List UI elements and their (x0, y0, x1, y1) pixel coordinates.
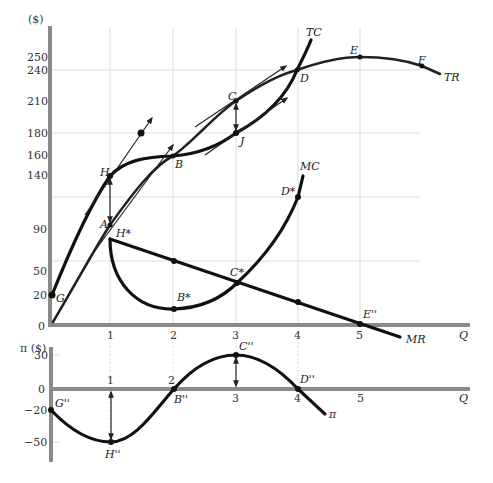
svg-text:G: G (56, 292, 65, 305)
tr-curve (53, 57, 440, 322)
svg-text:2: 2 (170, 329, 177, 342)
svg-text:2: 2 (168, 374, 175, 387)
tr-label: TR (444, 71, 460, 84)
svg-text:B'': B'' (173, 393, 188, 406)
tangent-point (138, 130, 145, 137)
svg-text:30: 30 (34, 349, 48, 362)
tc-label: TC (306, 26, 322, 39)
svg-text:250: 250 (27, 51, 48, 64)
bottom-x-label: Q (459, 392, 468, 405)
svg-text:H'': H'' (104, 448, 121, 461)
mc-label: MC (299, 160, 320, 173)
svg-text:D*: D* (280, 185, 296, 198)
svg-text:B: B (174, 158, 183, 171)
svg-text:3: 3 (232, 392, 239, 405)
svg-text:1: 1 (107, 329, 114, 342)
svg-text:0: 0 (38, 320, 45, 333)
svg-text:5: 5 (356, 329, 363, 342)
pi-label: π (328, 408, 337, 421)
svg-text:5: 5 (357, 392, 364, 405)
mc-curve (110, 176, 303, 309)
svg-text:E: E (349, 44, 358, 57)
mr-curve (110, 239, 400, 337)
svg-text:240: 240 (27, 64, 48, 77)
svg-text:C: C (228, 90, 237, 103)
svg-text:A: A (99, 218, 108, 231)
bottom-y-ticks: π ($) 30 0 −20 −50 (20, 342, 48, 449)
svg-text:180: 180 (27, 127, 48, 140)
top-x-label: Q (459, 329, 468, 342)
svg-text:−50: −50 (24, 436, 47, 449)
svg-text:1: 1 (107, 374, 114, 387)
top-y-label: ($) (28, 13, 44, 26)
svg-text:3: 3 (232, 329, 239, 342)
tangent-arrow-c (195, 66, 286, 127)
svg-text:J: J (238, 135, 245, 148)
top-points (49, 55, 425, 328)
top-point-labels: G H A B C J D E F TC TR MC MR H* B* C* D… (56, 26, 460, 346)
svg-text:H*: H* (115, 227, 132, 240)
svg-text:160: 160 (27, 149, 48, 162)
svg-text:140: 140 (27, 169, 48, 182)
svg-text:0: 0 (38, 383, 45, 396)
svg-text:C'': C'' (239, 340, 253, 353)
svg-text:210: 210 (27, 95, 48, 108)
svg-text:4: 4 (294, 392, 301, 405)
svg-text:−20: −20 (24, 404, 47, 417)
bottom-axes (50, 347, 470, 462)
svg-text:C*: C* (230, 266, 244, 279)
svg-text:D'': D'' (299, 373, 315, 386)
svg-text:B*: B* (176, 291, 191, 304)
tangent-arrow-j (205, 98, 287, 155)
svg-text:D: D (299, 72, 309, 85)
svg-text:4: 4 (294, 329, 301, 342)
profit-maximization-chart: ($) 250 240 210 180 160 140 90 50 20 0 1… (0, 0, 493, 483)
svg-text:50: 50 (33, 265, 47, 278)
svg-text:20: 20 (33, 289, 47, 302)
svg-text:E'': E'' (362, 308, 377, 321)
mr-label: MR (405, 333, 426, 346)
svg-text:G'': G'' (55, 397, 70, 410)
svg-text:90: 90 (33, 223, 47, 236)
top-y-ticks: ($) 250 240 210 180 160 140 90 50 20 0 (27, 13, 48, 333)
svg-text:F: F (417, 54, 426, 67)
svg-text:H: H (99, 166, 110, 179)
